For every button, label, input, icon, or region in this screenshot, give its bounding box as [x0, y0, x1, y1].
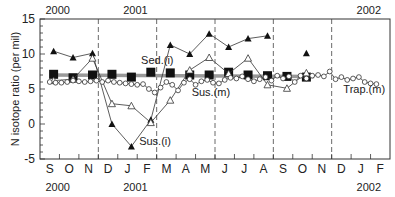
y-tick-label: 0 — [28, 117, 35, 131]
isotope-chart: -5051015 SONDJFMAMJJASONDJF2000200120022… — [0, 0, 395, 197]
open-circle-marker — [339, 75, 344, 80]
x-month-label: S — [46, 162, 54, 176]
x-month-label: O — [64, 162, 73, 176]
filled-triangle-marker — [206, 30, 213, 37]
open-circle-marker — [327, 69, 332, 74]
open-circle-marker — [88, 79, 93, 84]
open-circle-marker — [181, 80, 186, 85]
filled-square-marker — [146, 68, 155, 77]
open-circle-marker — [292, 80, 297, 85]
open-circle-marker — [53, 80, 58, 85]
y-tick-label: 15 — [22, 12, 36, 26]
x-month-label: N — [318, 162, 327, 176]
open-circle-marker — [146, 87, 151, 92]
open-circle-marker — [82, 80, 87, 85]
open-circle-marker — [228, 75, 233, 80]
open-circle-marker — [263, 75, 268, 80]
filled-triangle-marker — [225, 44, 232, 51]
open-circle-marker — [269, 78, 274, 83]
open-circle-marker — [211, 80, 216, 85]
open-circle-marker — [141, 82, 146, 87]
x-month-label: J — [358, 162, 364, 176]
open-circle-marker — [298, 73, 303, 78]
open-circle-marker — [176, 88, 181, 93]
filled-triangle-marker — [303, 50, 310, 57]
x-month-label: M — [161, 162, 171, 176]
open-circle-marker — [240, 74, 245, 79]
annotation-label: Sus.(i) — [139, 135, 171, 147]
x-year-label-top: 2001 — [123, 4, 147, 16]
open-circle-marker — [158, 85, 163, 90]
open-circle-marker — [100, 80, 105, 85]
filled-triangle-marker — [108, 121, 115, 128]
open-circle-marker — [351, 76, 356, 81]
open-circle-marker — [356, 75, 361, 80]
x-month-label: N — [84, 162, 93, 176]
open-circle-marker — [310, 73, 315, 78]
x-month-label: A — [260, 162, 268, 176]
open-circle-marker — [71, 78, 76, 83]
open-circle-marker — [117, 80, 122, 85]
x-month-label: D — [104, 162, 113, 176]
x-month-label: D — [337, 162, 346, 176]
x-month-label: F — [377, 162, 384, 176]
filled-square-marker — [166, 68, 175, 77]
open-circle-marker — [304, 76, 309, 81]
y-axis: -5051015 — [22, 12, 45, 166]
open-circle-marker — [106, 78, 111, 83]
x-month-label: F — [143, 162, 150, 176]
open-circle-marker — [94, 78, 99, 83]
x-year-label-top: 2002 — [357, 4, 381, 16]
filled-triangle-marker — [264, 32, 271, 39]
filled-triangle-marker — [167, 41, 174, 48]
open-circle-marker — [152, 90, 157, 95]
open-circle-marker — [123, 81, 128, 86]
open-circle-marker — [199, 79, 204, 84]
x-month-label: S — [279, 162, 287, 176]
open-circle-marker — [111, 80, 116, 85]
filled-square-marker — [127, 73, 136, 82]
open-circle-marker — [275, 73, 280, 78]
x-month-label: J — [125, 162, 131, 176]
open-circle-marker — [187, 77, 192, 82]
x-month-label: M — [200, 162, 210, 176]
annotations: Sed.(i)Sus.(m)Sus.(i)Trap.(m) — [139, 54, 385, 147]
open-circle-marker — [246, 77, 251, 82]
filled-square-marker — [107, 70, 116, 79]
x-month-label: A — [182, 162, 190, 176]
y-tick-label: -5 — [24, 152, 35, 166]
open-circle-marker — [205, 78, 210, 83]
open-circle-marker — [129, 82, 134, 87]
open-triangle-marker — [206, 54, 213, 61]
filled-triangle-marker — [50, 48, 57, 55]
annotation-label: Sus.(m) — [192, 86, 231, 98]
open-circle-marker — [76, 79, 81, 84]
open-circle-marker — [281, 76, 286, 81]
open-circle-marker — [164, 80, 169, 85]
open-circle-marker — [222, 78, 227, 83]
annotation-label: Trap.(m) — [343, 83, 385, 95]
open-circle-marker — [316, 73, 321, 78]
open-circle-marker — [65, 80, 70, 85]
annotation-label: Sed.(i) — [141, 54, 173, 66]
x-month-label: O — [298, 162, 307, 176]
x-year-label-bottom: 2002 — [357, 181, 381, 193]
open-circle-marker — [135, 82, 140, 87]
open-circle-marker — [321, 74, 326, 79]
x-year-label-top: 2000 — [45, 4, 69, 16]
y-axis-label: N isotope ratio (per mil) — [9, 32, 21, 146]
open-circle-marker — [47, 80, 52, 85]
x-year-label-bottom: 2000 — [45, 181, 69, 193]
open-circle-marker — [170, 82, 175, 87]
y-tick-label: 10 — [22, 47, 36, 61]
open-triangle-marker — [186, 67, 193, 74]
open-circle-marker — [257, 77, 262, 82]
open-triangle-marker — [167, 97, 174, 104]
x-month-label: J — [241, 162, 247, 176]
open-circle-marker — [234, 76, 239, 81]
open-circle-marker — [251, 79, 256, 84]
open-circle-marker — [286, 74, 291, 79]
open-triangle-marker — [245, 55, 252, 62]
x-month-label: J — [222, 162, 228, 176]
x-axis: SONDJFMAMJJASONDJF2000200120022000200120… — [45, 4, 383, 193]
